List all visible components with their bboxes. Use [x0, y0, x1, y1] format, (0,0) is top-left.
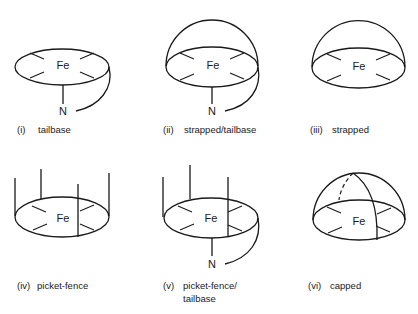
panel-numeral: (iii) — [310, 124, 323, 135]
tail-chain — [76, 67, 110, 111]
panel-tailbase: Fe N (i) tailbase — [15, 49, 110, 135]
nitrogen-atom: N — [208, 105, 216, 117]
porphyrin-models-diagram: Fe N (i) tailbase Fe N (ii) strapped/tai… — [0, 0, 418, 314]
cap-meridian-front — [353, 173, 377, 240]
panel-numeral: (vi) — [308, 280, 321, 291]
iron-atom: Fe — [353, 60, 366, 72]
panel-label-line1: picket-fence/ — [183, 280, 237, 291]
panel-numeral: (iv) — [17, 280, 30, 291]
panel-label: strapped/tailbase — [184, 124, 256, 135]
pickets — [163, 165, 228, 237]
tail-chain — [225, 218, 259, 264]
nitrogen-atom: N — [208, 258, 216, 270]
panel-label: capped — [330, 280, 361, 291]
panel-label: strapped — [332, 124, 369, 135]
cap-dome — [313, 173, 405, 220]
panel-picket-fence-tailbase: Fe N (v) picket-fence/ tailbase — [163, 165, 259, 304]
iron-atom: Fe — [57, 59, 70, 71]
panel-picket-fence: Fe (iv) picket-fence — [15, 169, 109, 291]
panel-label: tailbase — [38, 124, 71, 135]
panel-strapped: Fe (iii) strapped — [310, 21, 405, 135]
iron-atom: Fe — [207, 59, 220, 71]
panel-capped: Fe (vi) capped — [308, 173, 405, 291]
panel-numeral: (i) — [17, 124, 25, 135]
panel-numeral: (ii) — [163, 124, 174, 135]
panel-numeral: (v) — [163, 280, 174, 291]
iron-atom: Fe — [57, 212, 70, 224]
panel-label-line2: tailbase — [183, 293, 216, 304]
panel-strapped-tailbase: Fe N (ii) strapped/tailbase — [163, 20, 259, 135]
panel-label: picket-fence — [37, 280, 88, 291]
iron-atom: Fe — [353, 215, 366, 227]
nitrogen-atom: N — [59, 105, 67, 117]
iron-atom: Fe — [205, 212, 218, 224]
